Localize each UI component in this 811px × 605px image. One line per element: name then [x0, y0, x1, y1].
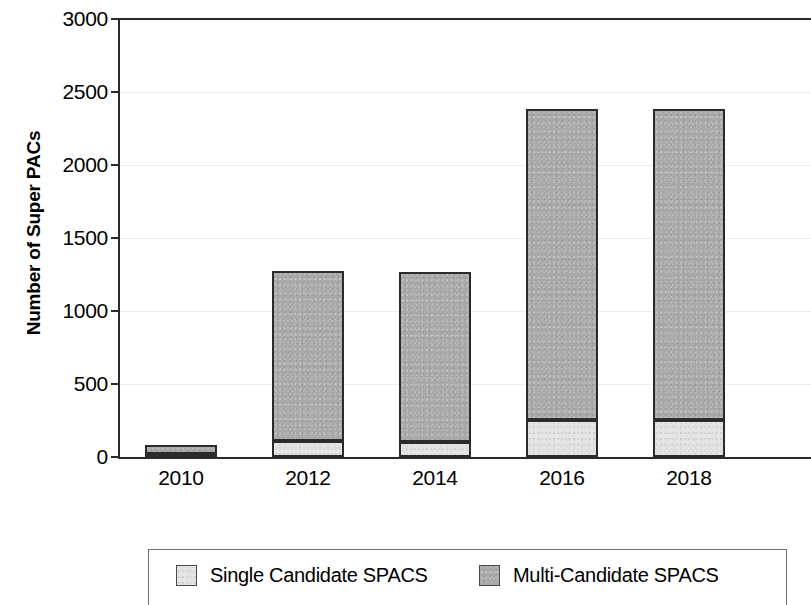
y-tick-label: 1500	[62, 226, 108, 250]
bar-2010	[145, 445, 217, 457]
x-tick-label-2014: 2014	[412, 466, 458, 490]
bar-2016	[526, 109, 598, 458]
bar-segment-single-2014	[399, 442, 471, 457]
bar-chart-figure: Number of Super PACs 3000250020001500100…	[0, 0, 811, 605]
y-tick-label: 0	[97, 445, 108, 469]
x-tick-label-2016: 2016	[539, 466, 585, 490]
bar-segment-multi-2018	[653, 109, 725, 421]
y-tick-label: 1000	[62, 299, 108, 323]
chart-legend: Single Candidate SPACSMulti-Candidate SP…	[148, 549, 787, 605]
y-axis-title: Number of Super PACs	[23, 103, 45, 363]
gridline	[120, 92, 811, 93]
bar-segment-multi-2010	[145, 445, 217, 454]
y-tick-label: 3000	[62, 7, 108, 31]
bar-segment-single-2018	[653, 420, 725, 457]
bar-segment-multi-2014	[399, 272, 471, 442]
legend-label: Single Candidate SPACS	[210, 564, 428, 587]
bar-2012	[272, 271, 344, 457]
bar-2014	[399, 272, 471, 457]
gridline	[120, 18, 811, 20]
bar-2018	[653, 109, 725, 458]
y-tick-label: 500	[74, 372, 108, 396]
bar-segment-multi-2016	[526, 109, 598, 421]
legend-item-single-candidate: Single Candidate SPACS	[176, 564, 428, 587]
y-tick-mark	[111, 310, 119, 312]
x-tick-label-2012: 2012	[285, 466, 331, 490]
y-tick-label: 2500	[62, 80, 108, 104]
legend-label: Multi-Candidate SPACS	[513, 564, 719, 587]
y-tick-mark	[111, 91, 119, 93]
legend-swatch-icon	[479, 565, 500, 586]
x-axis-line	[118, 457, 811, 459]
y-tick-mark	[111, 456, 119, 458]
y-tick-mark	[111, 18, 119, 20]
x-tick-label-2010: 2010	[158, 466, 204, 490]
bar-segment-single-2012	[272, 441, 344, 457]
bar-segment-multi-2012	[272, 271, 344, 441]
legend-swatch-icon	[176, 565, 197, 586]
legend-item-multi-candidate: Multi-Candidate SPACS	[479, 564, 719, 587]
y-tick-mark	[111, 164, 119, 166]
y-tick-label: 2000	[62, 153, 108, 177]
x-tick-label-2018: 2018	[666, 466, 712, 490]
bar-segment-single-2016	[526, 420, 598, 457]
plot-area: 300025002000150010005000 201020122014201…	[118, 18, 811, 459]
y-tick-mark	[111, 383, 119, 385]
y-tick-mark	[111, 237, 119, 239]
